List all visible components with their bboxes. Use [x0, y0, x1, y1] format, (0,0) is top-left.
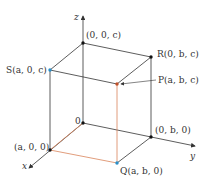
- x-axis-label: x: [22, 161, 27, 171]
- label-a00: (a, 0, 0): [14, 142, 49, 152]
- edge-top-s: [50, 43, 83, 70]
- point-p: [115, 82, 118, 85]
- label-q: Q(a, b, 0): [120, 166, 163, 176]
- diagram-svg: z y x (0, 0, c) S(a, 0, c) R(0, b, c) P(…: [0, 0, 206, 187]
- edge-r-p: [117, 57, 151, 84]
- y-axis-label: y: [189, 151, 196, 161]
- edge-s-p: [50, 70, 117, 84]
- label-top-axis: (0, 0, c): [86, 30, 121, 40]
- box-diagram: z y x (0, 0, c) S(a, 0, c) R(0, b, c) P(…: [0, 0, 206, 187]
- edge-0b0-q: [117, 137, 151, 163]
- edge-origin-a00: [50, 123, 83, 150]
- label-p: P(a, b, c): [158, 75, 199, 85]
- point-origin: [81, 121, 84, 124]
- z-axis-label: z: [73, 12, 79, 22]
- point-00c: [81, 41, 84, 44]
- point-q: [115, 161, 118, 164]
- label-r: R(0, b, c): [157, 49, 199, 59]
- edge-a00-q: [50, 150, 117, 163]
- point-r: [149, 55, 152, 58]
- label-origin: 0: [75, 116, 81, 126]
- point-s: [48, 68, 51, 71]
- label-0b0: (0, b, 0): [155, 125, 191, 135]
- edge-top-r: [83, 43, 151, 57]
- label-s: S(a, 0, c): [6, 65, 47, 75]
- point-0b0: [149, 135, 152, 138]
